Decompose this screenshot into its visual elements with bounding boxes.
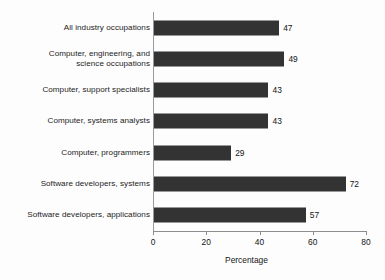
- bar-row: All industry occupations47: [0, 12, 385, 43]
- tick-mark: [260, 231, 261, 235]
- tick-mark: [153, 231, 154, 235]
- category-label: Computer, programmers: [4, 148, 150, 158]
- bar-row: Computer, engineering, and science occup…: [0, 43, 385, 74]
- tick-mark: [366, 231, 367, 235]
- tick-mark: [313, 231, 314, 235]
- bar-value-label: 72: [350, 179, 359, 189]
- bar: [154, 83, 268, 98]
- bar: [154, 20, 279, 35]
- bar: [154, 145, 231, 160]
- x-axis-title-label: Percentage: [225, 255, 268, 265]
- bar: [154, 114, 268, 129]
- bar-value-label: 43: [272, 116, 281, 126]
- category-label: Computer, engineering, and science occup…: [4, 49, 150, 68]
- bar-value-label: 47: [283, 23, 292, 33]
- category-label: Software developers, applications: [4, 211, 150, 221]
- bar-row: Computer, programmers29: [0, 137, 385, 168]
- category-label: Computer, systems analysts: [4, 117, 150, 127]
- bar: [154, 51, 284, 66]
- category-label: Computer, support specialists: [4, 85, 150, 95]
- tick-label: 0: [151, 237, 156, 247]
- bar-value-label: 57: [310, 210, 319, 220]
- bar: [154, 177, 346, 192]
- bar: [154, 208, 306, 223]
- tick-label: 60: [308, 237, 317, 247]
- bar-row: Software developers, systems72: [0, 168, 385, 199]
- x-axis-ticks: 020406080: [0, 231, 385, 255]
- category-label: Software developers, systems: [4, 179, 150, 189]
- bar-value-label: 43: [272, 85, 281, 95]
- tick-label: 20: [202, 237, 211, 247]
- x-axis-title: Percentage: [0, 255, 385, 265]
- tick-mark: [206, 231, 207, 235]
- bar-row: Software developers, applications57: [0, 200, 385, 231]
- bar-value-label: 29: [235, 148, 244, 158]
- bar-chart: All industry occupations47Computer, engi…: [0, 0, 385, 280]
- bar-value-label: 49: [288, 54, 297, 64]
- tick-label: 80: [361, 237, 370, 247]
- tick-label: 40: [255, 237, 264, 247]
- bar-rows: All industry occupations47Computer, engi…: [0, 12, 385, 231]
- bar-row: Computer, systems analysts43: [0, 106, 385, 137]
- bar-row: Computer, support specialists43: [0, 75, 385, 106]
- category-label: All industry occupations: [4, 23, 150, 33]
